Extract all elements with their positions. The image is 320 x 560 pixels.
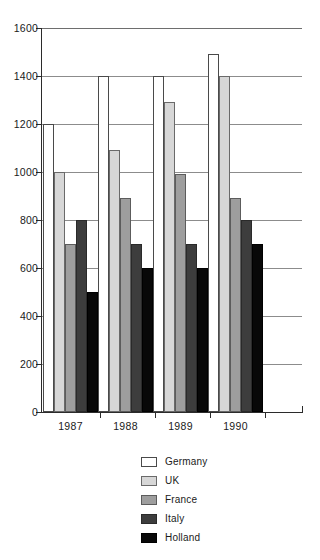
bar-france-1987: [65, 244, 76, 412]
legend-label-holland: Holland: [165, 532, 200, 543]
plot-area: 1600 1400 1200 1000 800 600 400 200 0 19…: [0, 0, 320, 440]
bar-uk-1987: [54, 172, 65, 412]
bar-chart: 1600 1400 1200 1000 800 600 400 200 0 19…: [0, 0, 320, 560]
legend-swatch-germany: [141, 457, 157, 467]
legend-item-holland: Holland: [141, 528, 291, 547]
bar-holland-1988: [142, 268, 153, 412]
bar-italy-1987: [76, 220, 87, 412]
legend-swatch-italy: [141, 514, 157, 524]
legend-item-uk: UK: [141, 471, 291, 490]
legend: GermanyUKFranceItalyHolland: [141, 452, 291, 547]
bar-germany-1988: [98, 76, 109, 412]
legend-swatch-uk: [141, 476, 157, 486]
bar-italy-1989: [186, 244, 197, 412]
bar-holland-1989: [197, 268, 208, 412]
bar-italy-1988: [131, 244, 142, 412]
legend-label-france: France: [165, 494, 197, 505]
bar-uk-1989: [164, 102, 175, 412]
legend-label-italy: Italy: [165, 513, 184, 524]
x-tick-label-1989: 1989: [151, 420, 211, 432]
bar-series-layer: [0, 0, 320, 440]
x-tick-label-1988: 1988: [96, 420, 156, 432]
bar-germany-1987: [43, 124, 54, 412]
x-tick-mark-1989: [210, 412, 211, 418]
bar-holland-1987: [87, 292, 98, 412]
legend-swatch-holland: [141, 533, 157, 543]
bar-france-1990: [230, 198, 241, 412]
x-tick-mark-1987: [100, 412, 101, 418]
x-tick-mark-1990: [265, 412, 266, 418]
legend-item-italy: Italy: [141, 509, 291, 528]
bar-france-1989: [175, 174, 186, 412]
bar-uk-1990: [219, 76, 230, 412]
x-tick-label-1987: 1987: [41, 420, 101, 432]
x-tick-label-1990: 1990: [206, 420, 266, 432]
legend-label-germany: Germany: [165, 456, 208, 467]
legend-label-uk: UK: [165, 475, 179, 486]
x-tick-mark-1988: [155, 412, 156, 418]
legend-item-germany: Germany: [141, 452, 291, 471]
bar-uk-1988: [109, 150, 120, 412]
bar-france-1988: [120, 198, 131, 412]
bar-holland-1990: [252, 244, 263, 412]
legend-item-france: France: [141, 490, 291, 509]
bar-italy-1990: [241, 220, 252, 412]
bar-germany-1989: [153, 76, 164, 412]
legend-swatch-france: [141, 495, 157, 505]
bar-germany-1990: [208, 54, 219, 412]
